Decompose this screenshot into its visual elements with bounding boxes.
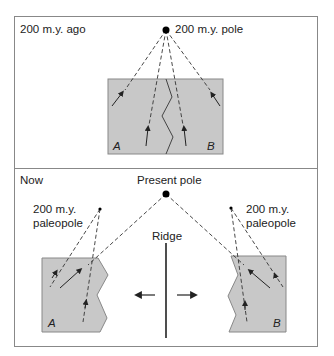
pole-200my-label: 200 m.y. pole xyxy=(175,23,243,36)
paleopole-a-label-2: paleopole xyxy=(33,217,83,230)
top-block-b-label: B xyxy=(207,140,215,153)
pole-200my-dot xyxy=(163,27,170,34)
top-block-a-label: A xyxy=(113,140,121,153)
paleopole-a-label-1: 200 m.y. xyxy=(33,203,76,216)
ridge-label: Ridge xyxy=(152,230,182,243)
bottom-block-a-label: A xyxy=(48,317,56,330)
present-pole-label: Present pole xyxy=(137,174,202,187)
continent-block-top xyxy=(108,79,223,154)
paleopole-b-dot xyxy=(229,206,232,209)
bottom-panel-title: Now xyxy=(20,174,43,187)
present-pole-dot xyxy=(163,191,170,198)
top-panel-title: 200 m.y. ago xyxy=(20,23,86,36)
paleopole-b-label-1: 200 m.y. xyxy=(246,203,289,216)
bottom-block-b-label: B xyxy=(273,317,281,330)
paleopole-a-dot xyxy=(98,207,101,210)
paleopole-b-label-2: paleopole xyxy=(246,217,296,230)
